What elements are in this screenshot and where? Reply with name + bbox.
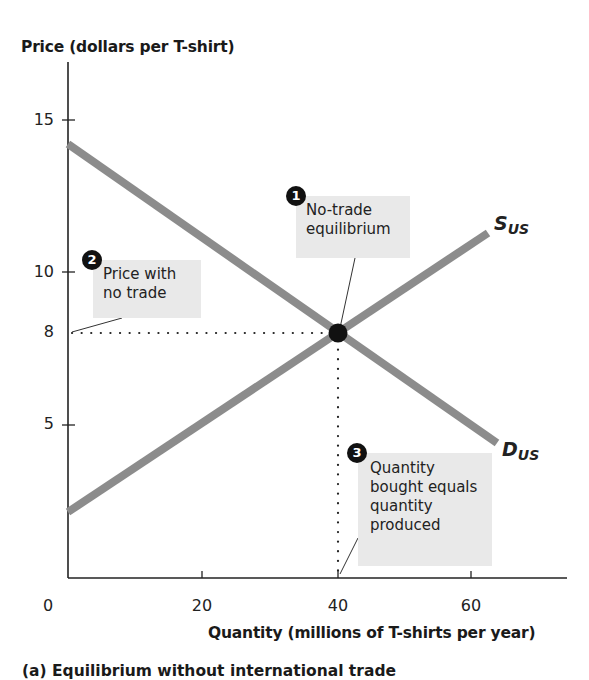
annotation-quantity-equals: Quantity bought equals quantity produced <box>358 453 492 566</box>
x-tick-40: 40 <box>318 596 358 615</box>
y-tick-5: 5 <box>24 414 54 433</box>
x-tick-20: 20 <box>182 596 222 615</box>
x-tick-60: 60 <box>451 596 491 615</box>
badge-2: 2 <box>82 250 102 270</box>
x-tick-0: 0 <box>28 596 68 615</box>
annotation-price-no-trade: Price with no trade <box>93 260 201 318</box>
leader-line-3 <box>340 538 358 574</box>
annotation-no-trade-equilibrium: No-trade equilibrium <box>296 196 410 258</box>
figure-caption: (a) Equilibrium without international tr… <box>22 662 396 680</box>
leader-line-2 <box>72 318 122 332</box>
equilibrium-point <box>329 324 348 343</box>
leader-line-1 <box>340 258 355 328</box>
y-tick-8: 8 <box>24 322 54 341</box>
badge-3: 3 <box>347 443 367 463</box>
x-axis-label: Quantity (millions of T-shirts per year) <box>208 624 535 642</box>
supply-curve-label: SUS <box>494 212 529 237</box>
y-tick-10: 10 <box>24 262 54 281</box>
demand-curve-label: DUS <box>502 438 539 463</box>
badge-1: 1 <box>286 186 306 206</box>
y-tick-15: 15 <box>24 110 54 129</box>
